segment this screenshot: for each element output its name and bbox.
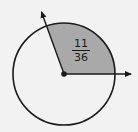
sector-fraction-label: 11 36 <box>72 38 90 63</box>
center-point <box>61 71 67 77</box>
fraction-denominator: 36 <box>72 51 90 63</box>
circle-diagram <box>0 0 138 132</box>
fraction-numerator: 11 <box>72 38 90 51</box>
